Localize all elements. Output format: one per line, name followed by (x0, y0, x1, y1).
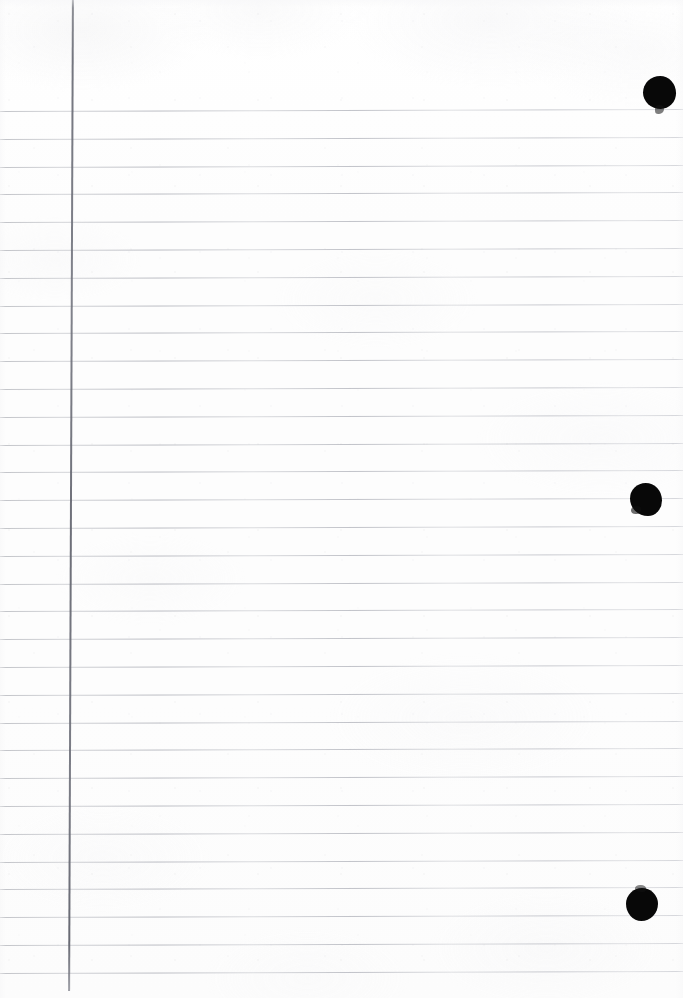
ink-blob-bottom-core (626, 888, 658, 921)
ink-blob-middle (630, 483, 662, 516)
ink-blob-top (643, 76, 676, 109)
paper-background (0, 0, 683, 998)
ink-blob-bottom-edge (635, 885, 646, 892)
notebook-page (0, 0, 683, 998)
ink-blob-bottom (626, 888, 658, 921)
ink-blob-middle-edge (631, 506, 641, 514)
